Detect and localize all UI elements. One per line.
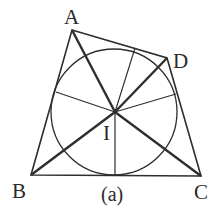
label-a: A xyxy=(64,5,80,29)
label-i: I xyxy=(103,121,110,145)
geometry-diagram: A D B C I (a) xyxy=(0,0,224,224)
caption: (a) xyxy=(101,183,123,206)
label-c: C xyxy=(194,180,208,204)
segment-ci xyxy=(115,112,201,176)
label-d: D xyxy=(173,49,188,73)
label-b: B xyxy=(12,179,26,203)
